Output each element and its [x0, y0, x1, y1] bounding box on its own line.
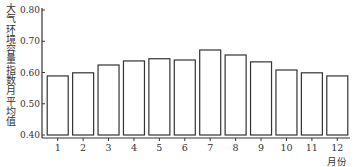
- bar: [276, 70, 297, 135]
- bar: [200, 50, 221, 135]
- x-tick-label: 5: [156, 142, 162, 153]
- x-tick-label: 12: [331, 142, 343, 153]
- x-tick-label: 6: [182, 142, 188, 153]
- x-tick-label: 4: [131, 142, 137, 153]
- bar: [149, 59, 170, 135]
- bar: [327, 76, 348, 135]
- x-tick-label: 8: [233, 142, 239, 153]
- bars: [47, 50, 348, 135]
- bar: [98, 65, 119, 135]
- x-tick-label: 2: [80, 142, 86, 153]
- bar: [47, 76, 68, 135]
- x-axis: 123456789101112: [42, 138, 350, 153]
- x-tick-label: 3: [106, 142, 112, 153]
- bar: [251, 62, 272, 135]
- bar: [174, 60, 195, 135]
- y-tick-label: 0.50: [20, 99, 40, 109]
- y-tick-label: 0.80: [20, 5, 40, 15]
- bar: [301, 73, 322, 135]
- x-tick-label: 7: [207, 142, 213, 153]
- y-tick-label: 0.70: [20, 36, 40, 46]
- x-tick-label: 9: [258, 142, 264, 153]
- y-tick-label: 0.60: [20, 68, 40, 78]
- x-tick-label: 11: [306, 142, 318, 153]
- y-tick-label: 0.40: [20, 130, 40, 140]
- bar: [123, 61, 144, 135]
- bar: [73, 73, 94, 135]
- bar: [225, 55, 246, 135]
- x-tick-label: 10: [280, 142, 292, 153]
- y-axis: 0.400.500.600.700.80: [20, 5, 45, 140]
- x-axis-title: 月份: [327, 154, 347, 167]
- bar-chart: 0.400.500.600.700.80 123456789101112: [0, 0, 357, 167]
- x-tick-label: 1: [55, 142, 61, 153]
